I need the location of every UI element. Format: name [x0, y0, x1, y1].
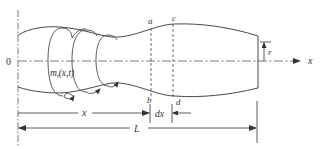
point-d-label: d — [176, 97, 181, 107]
dim-x-label: x — [81, 107, 87, 118]
shaft-bottom-contour — [18, 83, 258, 97]
point-b-label: b — [147, 95, 152, 105]
torque-label: mt(x,t) — [50, 68, 74, 79]
point-c-label: c — [172, 13, 176, 23]
origin-label: 0 — [6, 56, 11, 67]
shaft-diagram: 0 x a c b d mt(x,t) x dx L r — [0, 0, 324, 149]
shaft-top-contour — [18, 24, 258, 37]
dim-dx-label: dx — [155, 109, 165, 119]
dim-L-label: L — [133, 123, 140, 134]
axis-x-label: x — [307, 55, 313, 66]
point-a-label: a — [148, 16, 153, 26]
distributed-torque-coils — [48, 28, 118, 99]
radius-label: r — [268, 47, 272, 57]
